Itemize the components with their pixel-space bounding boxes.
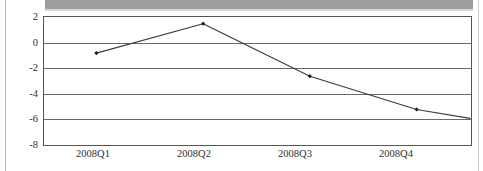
y-tick-minus4: -4 (0, 87, 38, 98)
plot-area (43, 16, 472, 146)
y-tick-0: 0 (0, 36, 38, 47)
y-tick-minus8: -8 (0, 139, 38, 150)
x-tick-2008q1: 2008Q1 (76, 148, 110, 159)
gridline-minus6 (44, 119, 471, 120)
y-tick-2: 2 (0, 11, 38, 22)
gridline-minus4 (44, 94, 471, 95)
gridline-minus2 (44, 68, 471, 69)
x-tick-2008q4: 2008Q4 (379, 148, 413, 159)
x-tick-2008q2: 2008Q2 (177, 148, 211, 159)
y-tick-minus6: -6 (0, 113, 38, 124)
x-tick-2008q3: 2008Q3 (278, 148, 312, 159)
line-chart: 2 0 -2 -4 -6 -8 2008Q1 2008Q2 2008Q3 200… (0, 0, 483, 171)
y-tick-minus2: -2 (0, 62, 38, 73)
y-axis-tick-labels: 2 0 -2 -4 -6 -8 (0, 16, 38, 144)
x-axis-tick-labels: 2008Q1 2008Q2 2008Q3 2008Q4 (43, 148, 470, 166)
chart-screenshot: 2 0 -2 -4 -6 -8 2008Q1 2008Q2 2008Q3 200… (0, 0, 483, 171)
gridline-0 (44, 43, 471, 44)
